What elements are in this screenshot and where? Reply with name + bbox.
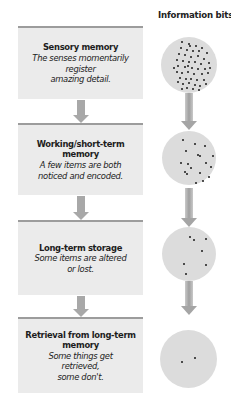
stage-title: Working/short-term memory (37, 139, 125, 160)
down-arrow-icon (181, 281, 197, 316)
stage-box-retrieval: Retrieval from long-term memory Some thi… (18, 317, 143, 393)
info-bits-circle-long-term (162, 227, 216, 281)
stage-box-sensory-memory: Sensory memory The senses momentarily re… (18, 26, 143, 99)
stage-title: Sensory memory (43, 42, 118, 53)
stage-box-long-term-storage: Long-term storage Some items are altered… (18, 220, 143, 295)
info-bits-circle-working (162, 131, 216, 185)
information-bits-header: Information bits (158, 10, 231, 20)
stage-description: The senses momentarily register amazing … (32, 53, 128, 85)
down-arrow-icon (181, 188, 197, 230)
stage-description: Some things get retrieved, some don't. (48, 351, 112, 383)
stage-box-working-memory: Working/short-term memory A few items ar… (18, 123, 143, 195)
stage-title: Retrieval from long-term memory (25, 330, 135, 351)
down-arrow-icon (73, 296, 89, 318)
down-arrow-icon (73, 100, 89, 124)
stage-description: Some items are altered or lost. (35, 253, 127, 274)
down-arrow-icon (181, 93, 197, 131)
stage-title: Long-term storage (39, 243, 122, 254)
info-bits-circle-retrieval (160, 330, 217, 388)
stage-description: A few items are both noticed and encoded… (38, 160, 123, 181)
info-bits-circle-sensory (161, 37, 217, 93)
down-arrow-icon (73, 196, 89, 221)
